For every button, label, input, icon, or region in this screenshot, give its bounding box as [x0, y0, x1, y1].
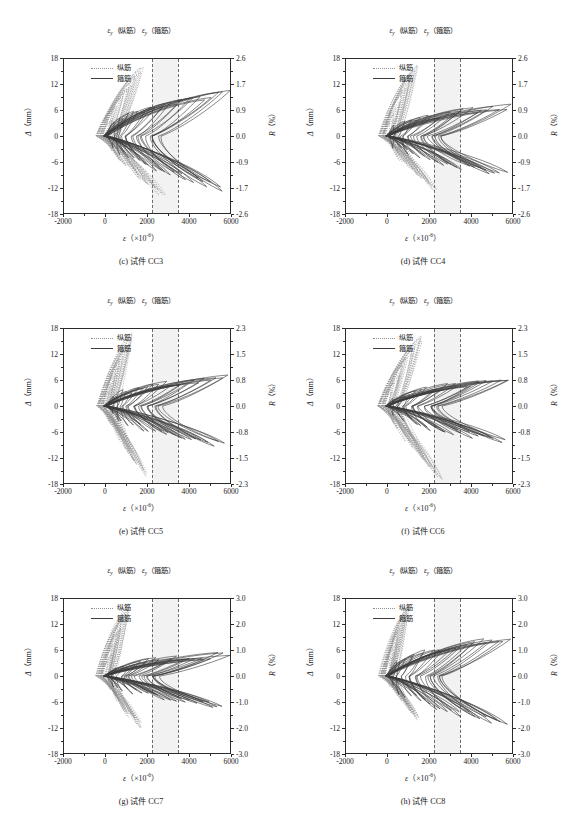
- x-tick-label: 6000: [505, 487, 520, 496]
- y-tick-major: [342, 702, 345, 703]
- plot-area-cc4: 182.6121.760.900.0-6-0.9-12-1.7-18-2.6-2…: [345, 58, 513, 214]
- y2-tick-minor: [513, 367, 515, 368]
- y2-tick-major: [513, 676, 516, 677]
- legend-cc7: 纵筋 箍筋: [91, 603, 131, 624]
- y2-tick-minor: [231, 201, 233, 202]
- y2-tick-major: [231, 650, 234, 651]
- y-tick-minor: [343, 741, 345, 742]
- y-tick-minor: [61, 663, 63, 664]
- y-tick-major: [60, 328, 63, 329]
- y2-tick-major: [231, 84, 234, 85]
- solid-line-icon: [373, 78, 395, 79]
- x-tick-minor: [492, 754, 493, 756]
- y2-tick-label: 2.3: [518, 324, 528, 333]
- x-tick-label: 0: [103, 487, 107, 496]
- y2-tick-minor: [513, 445, 515, 446]
- x-tick-minor: [408, 754, 409, 756]
- y-tick-major: [342, 650, 345, 651]
- y-tick-minor: [343, 715, 345, 716]
- x-tick-label: 2000: [139, 757, 154, 766]
- y2-tick-label: -0.9: [236, 158, 248, 167]
- y2-tick-minor: [231, 149, 233, 150]
- panel-caption: (c) 试件 CC3: [0, 254, 282, 266]
- y2-tick-label: -1.7: [236, 184, 248, 193]
- y2-tick-label: 2.6: [518, 54, 528, 63]
- curve-layer: [346, 329, 512, 483]
- y-tick-minor: [61, 175, 63, 176]
- y-tick-label: 18: [50, 54, 58, 63]
- y-tick-major: [60, 702, 63, 703]
- plot-frame: [345, 58, 513, 214]
- y-tick-label: 0: [336, 402, 340, 411]
- legend-label-stirrup: 箍筋: [117, 344, 131, 355]
- y-tick-label: -6: [52, 158, 58, 167]
- x-tick-label: 6000: [223, 487, 238, 496]
- y-axis-title: Δ（mm）: [304, 643, 315, 676]
- y2-tick-label: -1.5: [236, 454, 248, 463]
- plot-area-cc7: 183.0122.061.000.0-6-1.0-12-2.0-18-3.0-2…: [63, 598, 231, 754]
- y-tick-minor: [343, 367, 345, 368]
- y2-tick-major: [231, 598, 234, 599]
- y-tick-minor: [343, 689, 345, 690]
- y2-tick-minor: [513, 611, 515, 612]
- x-tick-minor: [168, 754, 169, 756]
- y2-tick-major: [231, 676, 234, 677]
- x-tick-label: -2000: [336, 757, 354, 766]
- y-tick-major: [342, 458, 345, 459]
- y2-tick-label: 1.7: [518, 80, 528, 89]
- y2-tick-label: 3.0: [518, 594, 528, 603]
- y2-tick-major: [513, 432, 516, 433]
- y-tick-major: [60, 728, 63, 729]
- y2-tick-major: [513, 58, 516, 59]
- x-tick-label: 6000: [505, 217, 520, 226]
- yield-strain-annotation: εy（纵筋） εy（箍筋）: [0, 24, 282, 36]
- dotted-line-icon: [373, 68, 395, 69]
- y-tick-major: [60, 406, 63, 407]
- y-tick-major: [60, 162, 63, 163]
- y2-tick-label: -1.0: [236, 698, 248, 707]
- y2-axis-title: R（%）: [548, 379, 559, 406]
- y-tick-label: 18: [332, 324, 340, 333]
- y2-tick-major: [231, 406, 234, 407]
- y2-tick-minor: [231, 367, 233, 368]
- y2-tick-label: 0.0: [518, 132, 528, 141]
- y-tick-major: [342, 354, 345, 355]
- x-tick-minor: [84, 214, 85, 216]
- y-tick-label: 18: [50, 324, 58, 333]
- panel-cc8: εy（纵筋） εy（箍筋） 183.0122.061.000.0-6-1.0-1…: [282, 562, 564, 832]
- y-tick-major: [342, 598, 345, 599]
- y2-tick-minor: [231, 689, 233, 690]
- y-tick-label: 0: [54, 672, 58, 681]
- dotted-line-icon: [373, 608, 395, 609]
- y2-tick-label: 2.3: [236, 324, 246, 333]
- x-tick-label: 2000: [139, 217, 154, 226]
- y2-tick-minor: [513, 341, 515, 342]
- y2-tick-label: -1.5: [518, 454, 530, 463]
- curve-layer: [346, 59, 512, 213]
- x-tick-minor: [126, 484, 127, 486]
- x-tick-label: -2000: [336, 217, 354, 226]
- y2-tick-label: 3.0: [236, 594, 246, 603]
- y-tick-label: -12: [48, 724, 58, 733]
- solid-line-icon: [91, 618, 113, 619]
- y-tick-major: [342, 406, 345, 407]
- x-tick-minor: [210, 754, 211, 756]
- curve-layer: [64, 599, 230, 753]
- y-tick-minor: [343, 445, 345, 446]
- y-tick-label: 0: [54, 402, 58, 411]
- y2-tick-label: 1.0: [518, 646, 528, 655]
- y-tick-minor: [343, 149, 345, 150]
- y2-tick-minor: [513, 123, 515, 124]
- y2-tick-major: [513, 702, 516, 703]
- legend-item-stirrup: 箍筋: [91, 344, 131, 355]
- y-tick-major: [342, 136, 345, 137]
- legend-cc3: 纵筋 箍筋: [91, 63, 131, 84]
- y-tick-minor: [61, 341, 63, 342]
- legend-label-stirrup: 箍筋: [117, 614, 131, 625]
- y2-tick-minor: [513, 663, 515, 664]
- y2-tick-major: [231, 110, 234, 111]
- y-tick-minor: [343, 71, 345, 72]
- y-tick-minor: [343, 393, 345, 394]
- yield-strain-annotation: εy（纵筋） εy（箍筋）: [282, 564, 564, 576]
- y2-tick-label: 2.6: [236, 54, 246, 63]
